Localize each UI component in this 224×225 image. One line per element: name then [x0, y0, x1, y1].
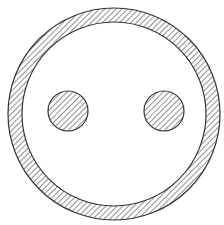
diagram-canvas	[0, 0, 224, 225]
right-dot	[144, 91, 184, 131]
hatched-ring	[8, 8, 220, 220]
dots-group	[48, 91, 184, 131]
left-dot	[48, 91, 88, 131]
